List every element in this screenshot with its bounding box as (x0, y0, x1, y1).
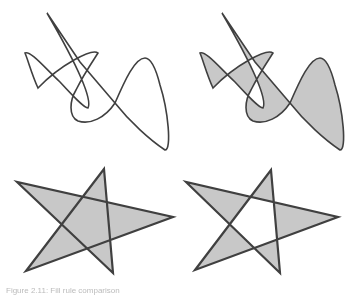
fill-rule-diagram (0, 0, 353, 299)
star-nonzero-fill (17, 169, 173, 273)
star-evenodd-fill (186, 170, 338, 273)
curve-outline (25, 13, 169, 150)
curve-evenodd-fill (200, 13, 344, 150)
figure-caption: Figure 2.11: Fill rule comparison (6, 286, 120, 295)
